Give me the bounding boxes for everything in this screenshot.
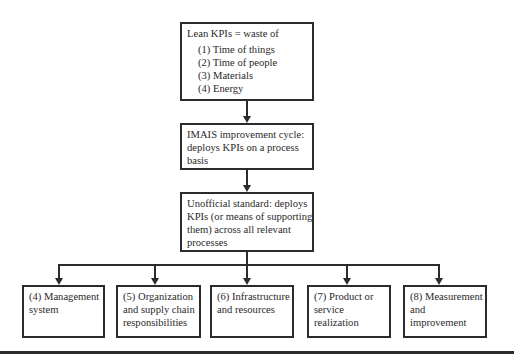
- waste-item: (3) Materials: [187, 69, 307, 82]
- box-line: (7) Product or: [314, 290, 384, 303]
- connector-line: [246, 170, 248, 186]
- lean-kpis-title: Lean KPIs = waste of: [187, 27, 307, 40]
- box-line: improvement: [410, 316, 480, 329]
- measurement-improvement-box: (8) Measurement and improvement: [403, 285, 487, 338]
- box-line: (6) Infrastructure: [217, 290, 287, 303]
- box-line: and: [410, 303, 480, 316]
- lean-kpis-box: Lean KPIs = waste of (1) Time of things …: [180, 22, 314, 101]
- unofficial-standard-box: Unofficial standard: deploys KPIs (or me…: [180, 192, 314, 252]
- organization-box: (5) Organization and supply chain respon…: [116, 285, 201, 338]
- waste-item: (1) Time of things: [187, 43, 307, 56]
- distribution-bus-line: [58, 264, 440, 266]
- box-line: responsibilities: [123, 316, 194, 329]
- waste-item: (4) Energy: [187, 82, 307, 95]
- box-line: and resources: [217, 303, 287, 316]
- box-line: system: [29, 303, 98, 316]
- imais-line: IMAIS improvement cycle:: [187, 128, 307, 141]
- standard-line: them) across all relevant: [187, 223, 307, 236]
- arrow-down-icon: [151, 278, 159, 285]
- connector-line: [438, 264, 440, 279]
- box-line: (8) Measurement: [410, 290, 480, 303]
- standard-line: processes: [187, 236, 307, 249]
- arrow-down-icon: [55, 278, 63, 285]
- imais-line: basis: [187, 154, 307, 167]
- box-line: (4) Management: [29, 290, 98, 303]
- box-line: realization: [314, 316, 384, 329]
- standard-line: KPIs (or means of supporting: [187, 210, 307, 223]
- imais-cycle-box: IMAIS improvement cycle: deploys KPIs on…: [180, 123, 314, 170]
- connector-line: [346, 264, 348, 279]
- arrow-down-icon: [343, 278, 351, 285]
- box-line: service: [314, 303, 384, 316]
- product-realization-box: (7) Product or service realization: [307, 285, 391, 338]
- connector-line: [246, 101, 248, 117]
- arrow-down-icon: [243, 185, 251, 192]
- box-line: (5) Organization: [123, 290, 194, 303]
- connector-line: [154, 264, 156, 279]
- standard-line: Unofficial standard: deploys: [187, 197, 307, 210]
- connector-line: [58, 264, 60, 279]
- waste-item: (2) Time of people: [187, 56, 307, 69]
- bottom-divider-rule: [0, 351, 514, 354]
- arrow-down-icon: [435, 278, 443, 285]
- arrow-down-icon: [243, 278, 251, 285]
- box-line: and supply chain: [123, 303, 194, 316]
- arrow-down-icon: [243, 116, 251, 123]
- management-system-box: (4) Management system: [22, 285, 105, 338]
- infrastructure-box: (6) Infrastructure and resources: [210, 285, 294, 338]
- imais-line: deploys KPIs on a process: [187, 141, 307, 154]
